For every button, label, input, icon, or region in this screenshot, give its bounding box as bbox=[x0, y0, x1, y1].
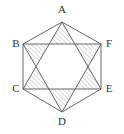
figure-container: ABCDEF bbox=[0, 0, 124, 134]
hexagram-figure: ABCDEF bbox=[0, 0, 124, 134]
vertex-label-d: D bbox=[58, 115, 66, 127]
star-point-top bbox=[49, 22, 75, 44]
vertex-label-f: F bbox=[106, 37, 112, 49]
star-point-hatching-group bbox=[23, 22, 101, 112]
star-point-bottom bbox=[49, 89, 75, 112]
vertex-label-b: B bbox=[12, 37, 19, 49]
vertex-label-c: C bbox=[12, 82, 19, 94]
vertex-label-a: A bbox=[58, 3, 66, 15]
vertex-label-e: E bbox=[106, 82, 113, 94]
